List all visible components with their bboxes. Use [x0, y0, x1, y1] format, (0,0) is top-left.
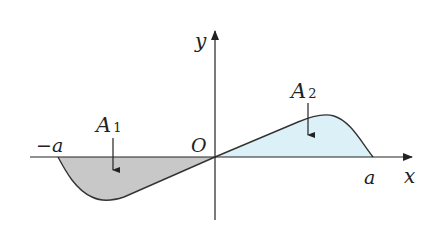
region-a1: [58, 157, 215, 200]
region-a1-label: A1: [94, 113, 121, 137]
region-a2: [215, 115, 373, 157]
x-axis-label: x: [404, 164, 415, 188]
origin-label: O: [191, 134, 207, 156]
area-diagram: y x O −a a A1 A2: [0, 0, 444, 231]
tick-label-a: a: [364, 166, 375, 188]
y-axis-label: y: [194, 29, 207, 53]
region-a2-label: A2: [289, 79, 316, 103]
tick-label-neg-a: −a: [36, 134, 63, 156]
